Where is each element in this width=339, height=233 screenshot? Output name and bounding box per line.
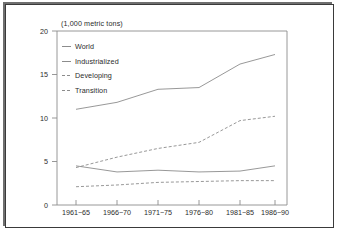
y-tick-label: 15	[26, 70, 48, 79]
legend-label-world: World	[75, 42, 94, 51]
x-axis-ticks	[76, 200, 275, 205]
x-tick-label: 1961−65	[53, 208, 99, 217]
chart-canvas	[0, 0, 339, 233]
x-tick-label: 1976−80	[176, 208, 222, 217]
y-axis-ticks	[52, 31, 57, 205]
legend-label-developing: Developing	[75, 71, 112, 80]
x-tick-label: 1966−70	[94, 208, 140, 217]
legend-line-sample	[62, 46, 71, 47]
series-line-transition	[76, 181, 275, 187]
x-tick-label: 1971−75	[135, 208, 181, 217]
series-line-industrialized	[76, 166, 275, 172]
legend-line-sample	[62, 75, 71, 76]
legend-label-industrialized: Industrialized	[75, 57, 119, 66]
legend-line-sample	[62, 61, 71, 62]
y-tick-label: 10	[26, 114, 48, 123]
x-tick-label: 1986−90	[252, 208, 298, 217]
legend-line-sample	[62, 90, 71, 91]
legend-label-transition: Transition	[75, 86, 107, 95]
series-line-developing	[76, 116, 275, 167]
y-tick-label: 0	[26, 201, 48, 210]
y-tick-label: 5	[26, 157, 48, 166]
y-tick-label: 20	[26, 27, 48, 36]
plot-area: (1,000 metric tons)	[0, 0, 339, 233]
chart-figure: (1,000 metric tons)	[0, 0, 339, 233]
